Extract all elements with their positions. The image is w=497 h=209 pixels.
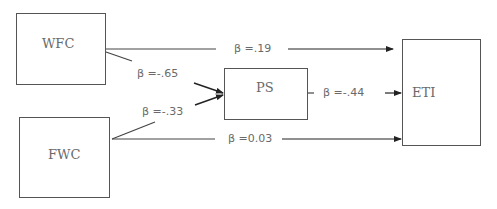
edge-label-ps-eti: β =-.44: [323, 87, 364, 99]
node-fwc: FWC: [19, 117, 110, 198]
node-eti: ETI: [402, 39, 481, 146]
node-wfc-label: WFC: [42, 36, 74, 51]
node-ps: PS: [224, 68, 308, 120]
edge-label-fwc-ps: β =-.33: [142, 106, 183, 118]
path-diagram: WFC FWC PS ETI β =.19 β =-.65 β =-.33 β …: [0, 0, 497, 209]
node-eti-label: ETI: [412, 85, 435, 100]
node-fwc-label: FWC: [48, 147, 80, 162]
edge-label-fwc-eti: β =0.03: [228, 133, 272, 145]
edge-label-wfc-eti: β =.19: [234, 43, 271, 55]
edge-label-wfc-ps: β =-.65: [137, 68, 178, 80]
node-ps-label: PS: [256, 80, 274, 95]
node-wfc: WFC: [16, 13, 106, 85]
